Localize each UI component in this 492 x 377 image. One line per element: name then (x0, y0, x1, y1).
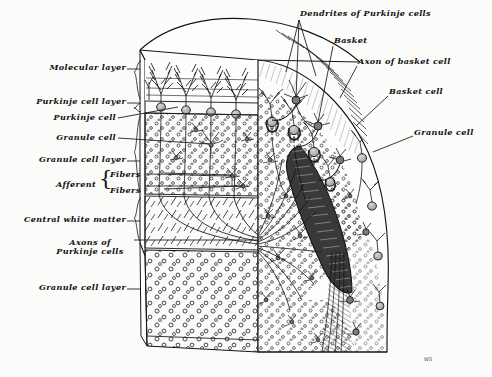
label-granule-cell-layer-upper: Granule cell layer (39, 155, 126, 164)
label-molecular-layer: Molecular layer (50, 63, 126, 72)
label-afferent-fibers-2: Fibers (110, 186, 141, 195)
label-granule-cell: Granule cell (56, 133, 116, 142)
label-afferent: Afferent (56, 180, 96, 189)
label-granule-cell-layer-lower: Granule cell layer (39, 283, 126, 292)
label-purkinje-cell: Purkinje cell (54, 113, 116, 122)
label-afferent-fibers-1: Fibers (110, 170, 141, 179)
label-axons-line2: Purkinje cells (56, 247, 123, 256)
label-central-white-matter: Central white matter (24, 215, 126, 224)
label-dendrites-of-purkinje-cells: Dendrites of Purkinje cells (300, 9, 431, 18)
artist-signature: WS (424, 356, 432, 362)
label-purkinje-cell-layer: Purkinje cell layer (36, 97, 126, 106)
label-granule-cell-right: Granule cell (414, 128, 474, 137)
label-axons-of-purkinje-cells: Axons of Purkinje cells (90, 238, 157, 257)
label-basket-cell: Basket cell (389, 87, 443, 96)
central-white-matter-region (145, 194, 258, 250)
granule-cell-layer-upper (145, 111, 258, 198)
cerebellum-diagram: Molecular layer Purkinje cell layer Purk… (0, 0, 492, 377)
molecular-layer-region (145, 60, 258, 110)
folium-section (258, 60, 388, 352)
label-axon-of-basket-cell: Axon of basket cell (358, 57, 451, 66)
label-basket: Basket (334, 36, 367, 45)
granule-cell-layer-lower (145, 250, 258, 352)
